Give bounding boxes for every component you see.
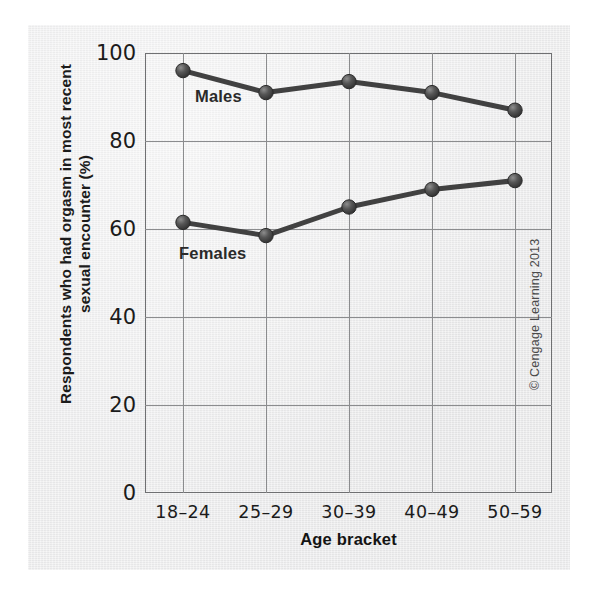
y-axis-title: Respondents who had orgasm in most recen… <box>56 39 94 429</box>
data-point-marker <box>508 103 522 117</box>
data-point-marker <box>508 173 522 187</box>
series-label-females: Females <box>179 244 246 263</box>
figure-page: Respondents who had orgasm in most recen… <box>0 0 613 600</box>
x-tick-label: 25–29 <box>238 502 293 522</box>
x-tick-label: 30–39 <box>321 502 376 522</box>
x-axis-title: Age bracket <box>145 530 552 549</box>
copyright-credit: © Cengage Learning 2013 <box>528 200 542 390</box>
data-point-marker <box>176 215 190 229</box>
data-point-marker <box>425 182 439 196</box>
y-tick-label: 60 <box>109 217 136 241</box>
y-tick-label: 100 <box>96 41 136 65</box>
y-axis-title-line-1: Respondents who had orgasm in most recen… <box>56 39 75 429</box>
x-tick-label: 40–49 <box>404 502 459 522</box>
y-axis-title-line-2: sexual encounter (%) <box>75 39 94 429</box>
data-point-marker <box>176 63 190 77</box>
data-point-marker <box>342 200 356 214</box>
series-layer <box>145 53 552 493</box>
y-tick-label: 20 <box>109 393 136 417</box>
y-tick-label: 40 <box>109 305 136 329</box>
plot-area: 020406080100 18–2425–2930–3940–4950–59 M… <box>145 53 552 493</box>
y-tick-label: 80 <box>109 129 136 153</box>
data-point-marker <box>342 74 356 88</box>
x-tick-label: 50–59 <box>487 502 542 522</box>
y-tick-label: 0 <box>123 481 136 505</box>
x-tick-label: 18–24 <box>155 502 210 522</box>
data-point-marker <box>425 85 439 99</box>
data-point-marker <box>259 85 273 99</box>
series-label-males: Males <box>195 87 242 106</box>
series-females <box>176 173 522 242</box>
data-point-marker <box>259 228 273 242</box>
